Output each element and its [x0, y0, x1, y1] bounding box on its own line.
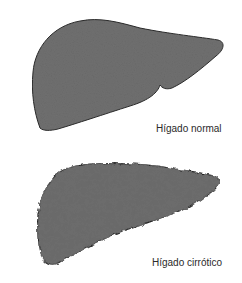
- cirrhotic-liver-label: Hígado cirrótico: [152, 257, 222, 268]
- liver-diagram: [0, 0, 242, 283]
- normal-liver-label: Hígado normal: [156, 123, 222, 134]
- normal-liver-shape: [32, 20, 223, 131]
- normal-liver-illustration: [32, 20, 223, 131]
- cirrhotic-liver-illustration: [38, 164, 219, 264]
- cirrhotic-liver-shape: [38, 164, 219, 264]
